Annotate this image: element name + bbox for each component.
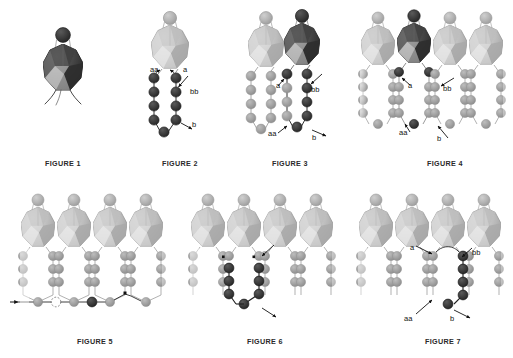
polymerized-chains (224, 263, 264, 309)
caption-figure-7: FIGURE 7 (398, 337, 488, 346)
molecule-row (18, 194, 165, 295)
label-bb: bb (190, 88, 198, 96)
label-a: a (183, 66, 187, 74)
caption-figure-6: FIGURE 6 (220, 337, 310, 346)
vacant-site-icon (51, 297, 61, 307)
label-b: b (192, 121, 196, 129)
caption-figure-5: FIGURE 5 (50, 337, 140, 346)
bottom-reaction-row (10, 292, 161, 307)
caption-figure-3: FIGURE 3 (245, 159, 335, 168)
figure-1 (28, 22, 98, 108)
figure-2-graphic (140, 10, 220, 146)
figure-7-graphic (358, 190, 510, 330)
label-a: a (410, 244, 414, 252)
figure-3-graphic (240, 6, 340, 148)
label-a: a (408, 82, 412, 90)
base-bead-4 (141, 297, 150, 306)
leader-bb (311, 74, 322, 84)
molecule-3 (430, 12, 469, 129)
caption-figure-4: FIGURE 4 (400, 159, 490, 168)
figure-5-graphic (20, 190, 170, 322)
node-marker-left (222, 256, 225, 259)
molecule-4 (466, 12, 505, 129)
figure-sheet: FIGURE 1 (0, 0, 513, 358)
molecule-4 (126, 194, 165, 295)
molecule-3 (260, 194, 299, 295)
label-bb: bb (472, 249, 480, 257)
arrow-bottom (262, 308, 276, 317)
molecule-right (282, 9, 320, 132)
label-b: b (312, 134, 316, 142)
leader-b (454, 310, 470, 318)
molecule-2 (394, 10, 433, 129)
figure-4: a bb aa b (360, 6, 510, 148)
base-bead-2 (69, 297, 78, 306)
label-b: b (437, 135, 441, 143)
reacted-bead-icon (87, 297, 97, 307)
polymerized-chain-right (443, 251, 468, 309)
molecule-row (356, 194, 503, 295)
label-aa: aa (150, 66, 158, 74)
figure-7: a bb aa b (358, 190, 510, 330)
node-marker-right (253, 256, 256, 259)
label-aa: aa (268, 130, 276, 138)
molecule-3 (90, 194, 129, 295)
label-aa: aa (404, 315, 412, 323)
label-bb: bb (443, 85, 451, 93)
tail-chain-left (149, 73, 160, 131)
figure-4-graphic (360, 6, 510, 148)
head-bead-icon (56, 28, 71, 43)
label-aa: aa (399, 129, 407, 137)
node-marker (124, 292, 127, 295)
label-a: a (276, 82, 280, 90)
label-b: b (450, 315, 454, 323)
chain-base-bead-icon (443, 299, 453, 309)
molecule-4 (464, 194, 503, 295)
figure-6 (190, 190, 340, 330)
molecule-4 (296, 194, 335, 295)
leader-aa (278, 126, 287, 133)
molecule-2 (224, 194, 263, 261)
molecule-2 (54, 194, 93, 295)
figure-3: a bb aa b (240, 6, 340, 148)
leader-a (170, 70, 174, 73)
molecule-left (246, 12, 284, 134)
label-bb: bb (311, 86, 319, 94)
caption-figure-2: FIGURE 2 (140, 159, 220, 168)
tail-base-bead-icon (159, 127, 169, 137)
leader-b (181, 123, 192, 129)
base-bead-1 (33, 297, 42, 306)
figure-1-graphic (28, 22, 98, 108)
leader-aa (416, 300, 432, 314)
head-bead-icon (163, 11, 176, 24)
caption-figure-1: FIGURE 1 (28, 159, 98, 168)
base-bead-3 (105, 297, 114, 306)
figure-5 (20, 190, 170, 322)
figure-6-graphic (190, 190, 340, 330)
tail-chain-right (168, 73, 181, 132)
figure-2: aa a bb b (140, 10, 220, 146)
